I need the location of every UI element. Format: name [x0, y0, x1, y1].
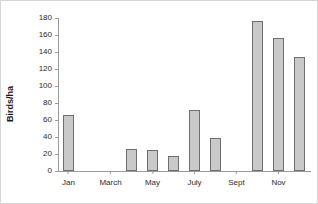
- y-axis-tick-mark: [55, 103, 58, 104]
- y-axis-tick-label: 180: [39, 14, 55, 22]
- y-axis-tick-mark: [55, 137, 58, 138]
- bar: [273, 38, 284, 171]
- y-axis-tick: 180: [39, 14, 58, 22]
- y-axis-tick-mark: [55, 120, 58, 121]
- y-axis-tick: 160: [39, 31, 58, 39]
- x-axis-tick-mark: [152, 171, 153, 174]
- y-axis-tick-mark: [55, 69, 58, 70]
- y-axis-tick-label: 20: [43, 150, 55, 158]
- x-axis-tick: Jan: [62, 171, 75, 187]
- bar: [147, 150, 158, 171]
- x-axis-tick-mark: [110, 171, 111, 174]
- x-axis-tick: May: [145, 171, 160, 187]
- y-axis-tick-mark: [55, 86, 58, 87]
- y-axis-tick-label: 40: [43, 133, 55, 141]
- bar: [63, 115, 74, 171]
- y-axis-tick-mark: [55, 35, 58, 36]
- y-axis-tick-label: 140: [39, 48, 55, 56]
- plot-area: 020406080100120140160180JanMarchMayJulyS…: [58, 18, 310, 171]
- x-axis-tick-mark: [236, 171, 237, 174]
- y-axis-tick: 140: [39, 48, 58, 56]
- bar: [126, 149, 137, 171]
- x-axis-tick-mark: [278, 171, 279, 174]
- y-axis-tick: 60: [43, 116, 58, 124]
- y-axis-tick-label: 80: [43, 99, 55, 107]
- bar: [168, 156, 179, 171]
- y-axis-tick-mark: [55, 52, 58, 53]
- y-axis-tick: 0: [48, 167, 58, 175]
- y-axis-tick-label: 60: [43, 116, 55, 124]
- y-axis-tick: 120: [39, 65, 58, 73]
- y-axis-label-text: Birds/ha: [5, 86, 15, 122]
- x-axis-tick-label: July: [187, 179, 201, 187]
- x-axis-tick-label: March: [99, 179, 121, 187]
- y-axis-tick-mark: [55, 18, 58, 19]
- y-axis-tick-mark: [55, 154, 58, 155]
- y-axis-tick-label: 120: [39, 65, 55, 73]
- y-axis-tick: 80: [43, 99, 58, 107]
- x-axis-tick-mark: [194, 171, 195, 174]
- x-axis-tick: March: [99, 171, 121, 187]
- x-axis-tick-mark: [68, 171, 69, 174]
- x-axis-tick: July: [187, 171, 201, 187]
- x-axis-tick-label: Nov: [271, 179, 285, 187]
- x-axis-tick: Nov: [271, 171, 285, 187]
- y-axis-tick: 40: [43, 133, 58, 141]
- y-axis-tick-mark: [55, 171, 58, 172]
- y-axis-label: Birds/ha: [3, 59, 17, 149]
- x-axis-tick-label: Sept: [228, 179, 244, 187]
- x-axis-tick-label: May: [145, 179, 160, 187]
- x-axis-tick-label: Jan: [62, 179, 75, 187]
- y-axis-tick: 100: [39, 82, 58, 90]
- bar: [210, 138, 221, 171]
- bar: [252, 21, 263, 171]
- bar: [189, 110, 200, 171]
- x-axis-tick: Sept: [228, 171, 244, 187]
- y-axis-tick-label: 0: [48, 167, 55, 175]
- bar-chart-figure: Birds/ha 020406080100120140160180JanMarc…: [0, 0, 318, 204]
- y-axis-tick: 20: [43, 150, 58, 158]
- y-axis-tick-label: 100: [39, 82, 55, 90]
- y-axis-tick-label: 160: [39, 31, 55, 39]
- bar: [294, 57, 305, 171]
